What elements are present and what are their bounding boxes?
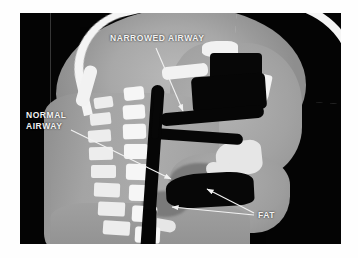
- spinous-process: [103, 220, 131, 236]
- vertebral-body: [123, 86, 144, 101]
- vertebral-body: [124, 144, 148, 159]
- ct-scan-image: [20, 13, 341, 244]
- label-narrowed-airway: NARROWED AIRWAY: [110, 33, 204, 44]
- spinous-process: [98, 201, 126, 216]
- label-normal-airway: NORMAL AIRWAY: [26, 110, 67, 131]
- spinous-process: [89, 147, 113, 161]
- trachea-air: [143, 209, 157, 244]
- spinous-process: [89, 112, 111, 126]
- hypopharynx-air: [165, 171, 255, 210]
- spinous-process: [91, 165, 116, 178]
- page-canvas: NARROWED AIRWAY NORMAL AIRWAY FAT: [0, 0, 358, 258]
- spinous-process: [88, 129, 112, 143]
- vertebral-body: [123, 124, 147, 140]
- vertebral-body: [123, 104, 146, 120]
- label-fat: FAT: [258, 210, 275, 221]
- spinous-process: [94, 183, 120, 198]
